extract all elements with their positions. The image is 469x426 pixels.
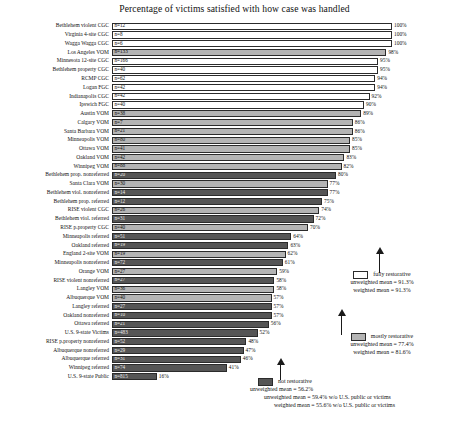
bar-row: RCMP CGCn=6294% <box>112 75 392 84</box>
bar-row: Indianapolis CGCn=4292% <box>112 92 392 101</box>
bar-value-label: 83% <box>346 155 356 160</box>
bar-n-label: n=27 <box>115 269 126 274</box>
bar-value-label: 94% <box>377 85 387 90</box>
bar-row: Bethlehem viol. nonreferredn=1477% <box>112 189 392 198</box>
bar-value-label: 89% <box>363 111 373 116</box>
bar-category-label: U.S. 9-state Public <box>68 374 109 380</box>
bar-n-label: n=21 <box>115 129 126 134</box>
legend-swatch-mostly-icon <box>351 333 366 341</box>
bar: n=40 <box>112 224 308 231</box>
bar-value-label: 86% <box>355 129 365 134</box>
bar-category-label: Oakland referred <box>72 243 109 249</box>
bar-value-label: 100% <box>394 32 407 37</box>
bar: n=7 <box>112 119 353 126</box>
bar: n=21 <box>112 321 269 328</box>
bar-row: RISE p.property CGCn=4070% <box>112 224 392 233</box>
bar-n-label: n=19 <box>115 243 126 248</box>
bar: n=27 <box>112 277 274 284</box>
bar: n=42 <box>112 84 375 91</box>
bar-row: Oakland nonreferredn=1057% <box>112 311 392 320</box>
bar-category-label: Langley VOM <box>77 287 109 293</box>
bar-value-label: 98% <box>388 50 398 55</box>
bar-row: Austin VOMn=3889% <box>112 110 392 119</box>
bar-category-label: Wagga Wagga CGC <box>65 41 109 47</box>
bar-category-label: Albuquerque nonreferred <box>53 348 109 354</box>
bar-row: Bethlehem violent CGCn=12100% <box>112 22 392 31</box>
bar-category-label: RISE violent CGC <box>68 208 109 214</box>
bar: n=19 <box>112 242 288 249</box>
bar: n=19 <box>112 251 286 258</box>
legend-not-unweighted-mean: unweighted mean = 56.2% <box>250 386 465 394</box>
bar-n-label: n=42 <box>115 155 126 160</box>
bar-category-label: Minneapolis nonreferred <box>54 260 109 266</box>
bar-n-label: n=8 <box>115 32 123 37</box>
bar-category-label: RISE violent nonreferred <box>53 278 109 284</box>
bar-n-label: n=31 <box>115 216 126 221</box>
bar-n-label: n=88 <box>115 164 126 169</box>
bar-n-label: n=7 <box>115 120 123 125</box>
bar-value-label: 47% <box>246 348 256 353</box>
legend-mostly-restorative: mostly restorative unweighted mean = 77.… <box>302 333 462 357</box>
bar-row: Bethlehem prop. referredn=1275% <box>112 197 392 206</box>
bar-n-label: n=30 <box>115 181 126 186</box>
legend-swatch-not-icon <box>258 378 273 386</box>
bar-n-label: n=42 <box>115 94 126 99</box>
bar-value-label: 52% <box>260 330 270 335</box>
bar: n=133 <box>112 49 386 56</box>
legend-mostly-weighted-mean: weighted mean = 81.6% <box>302 349 462 357</box>
legend-swatch-fully-icon <box>353 271 368 279</box>
bar-n-label: n=14 <box>115 190 126 195</box>
bar-n-label: n=40 <box>115 295 126 300</box>
bar-row: Oakland referredn=1963% <box>112 241 392 250</box>
bar-n-label: n=36 <box>115 287 126 292</box>
bar-n-label: n=20 <box>115 173 126 178</box>
bar-n-label: n=483 <box>115 330 128 335</box>
bar-value-label: 63% <box>290 243 300 248</box>
bar-value-label: 64% <box>293 234 303 239</box>
bar-category-label: Santa Barbara VOM <box>64 129 109 135</box>
bar: n=62 <box>112 75 375 82</box>
bar-category-label: Virginia 4-site CGC <box>65 32 109 38</box>
bar-category-label: RISE p.property CGC <box>60 225 109 231</box>
bar-category-label: Winnipeg referred <box>69 365 109 371</box>
bar-value-label: 16% <box>159 374 169 379</box>
bar-n-label: n=40 <box>115 67 126 72</box>
bar-value-label: 80% <box>338 173 348 178</box>
legend-mostly-arrow-icon <box>336 309 348 335</box>
bar-category-label: Winnipeg VOM <box>73 164 109 170</box>
bar-n-label: n=21 <box>115 322 126 327</box>
bar-value-label: 86% <box>355 120 365 125</box>
bar-value-label: 95% <box>380 68 390 73</box>
bar-category-label: RISE p.property nonreferred <box>46 339 109 345</box>
bar-value-label: 94% <box>377 76 387 81</box>
bar: n=36 <box>112 286 274 293</box>
bar-category-label: Austin VOM <box>80 111 109 117</box>
bar-row: RISE violent CGCn=2674% <box>112 206 392 215</box>
bar-value-label: 74% <box>321 208 331 213</box>
bar-row: Minneapolis VOMn=8085% <box>112 136 392 145</box>
bar-row: Winnipeg referredn=7441% <box>112 364 392 373</box>
legend-mostly-unweighted-mean: unweighted mean = 77.4% <box>302 341 462 349</box>
bar-row: England 2-site VOMn=1962% <box>112 250 392 259</box>
bar: n=12 <box>112 23 392 30</box>
bar-category-label: Los Angeles VOM <box>68 50 109 56</box>
bar: n=815 <box>112 373 157 380</box>
bar-n-label: n=80 <box>115 138 126 143</box>
bar-category-label: Minnesota 12-site CGC <box>57 59 109 65</box>
bar: n=21 <box>112 128 353 135</box>
bar-n-label: n=166 <box>115 59 128 64</box>
bar-row: Ottawa referredn=2156% <box>112 320 392 329</box>
bar: n=40 <box>112 66 378 73</box>
bar: n=26 <box>112 207 319 214</box>
bar-n-label: n=74 <box>115 365 126 370</box>
bar-value-label: 70% <box>310 225 320 230</box>
bar-n-label: n=29 <box>115 348 126 353</box>
legend-fully-weighted-mean: weighted mean = 91.3% <box>302 287 462 295</box>
bar-category-label: Ottawa referred <box>74 322 109 328</box>
legend-not-unweighted-mean-excl: unweighted mean = 59.4% w/o U.S. public … <box>264 394 465 402</box>
bar-value-label: 56% <box>271 322 281 327</box>
bar-n-label: n=10 <box>115 313 126 318</box>
bar-value-label: 48% <box>248 339 258 344</box>
bar-n-label: n=72 <box>115 260 126 265</box>
bar: n=12 <box>112 198 322 205</box>
